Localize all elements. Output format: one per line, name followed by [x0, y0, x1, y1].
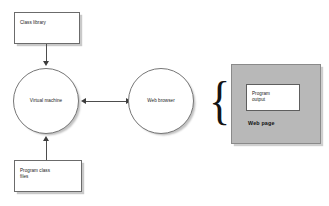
node-program-output: Program output	[246, 84, 300, 111]
connector-vm-browser-line	[86, 101, 127, 102]
node-program-class-files: Program class files	[14, 160, 82, 192]
node-class-library: Class library	[14, 12, 80, 44]
curly-brace-icon: {	[209, 75, 230, 127]
node-class-library-label: Class library	[20, 20, 46, 26]
connector-program-class-files-arrowhead	[43, 136, 49, 141]
node-web-page-label: Web page	[248, 120, 275, 126]
node-virtual-machine-label: Virtual machine	[14, 98, 78, 104]
diagram-canvas: Class library Virtual machine Program cl…	[0, 0, 329, 206]
connector-class-library-arrowhead	[43, 61, 49, 66]
node-web-browser: Web browser	[128, 68, 194, 134]
node-program-class-files-label: Program class files	[20, 168, 50, 180]
node-virtual-machine: Virtual machine	[13, 68, 79, 134]
node-web-page: Program output Web page	[231, 64, 321, 144]
connector-program-class-files-line	[46, 141, 47, 160]
node-program-output-label: Program output	[252, 91, 270, 103]
node-web-browser-label: Web browser	[129, 98, 193, 104]
connector-vm-browser-arrowhead-left	[81, 98, 86, 104]
